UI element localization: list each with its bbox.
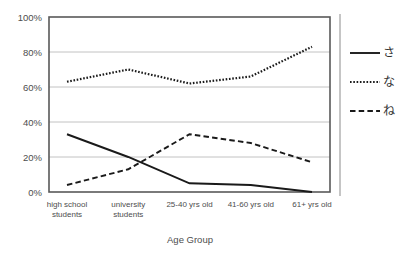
chart-canvas: 0%20%40%60%80%100% high schoolstudentsun… [0,0,402,267]
plot-area-frame [49,17,330,192]
series-line-solid [67,134,312,192]
legend: さなね [350,46,395,118]
gridlines [49,52,330,157]
series-line-dashed [67,134,312,185]
x-axis-tick-label: students [52,210,82,219]
line-chart: 0%20%40%60%80%100% high schoolstudentsun… [0,0,402,267]
legend-label: さ [383,46,395,60]
x-axis-title: Age Group [167,234,213,245]
y-axis-tick-label: 100% [18,12,43,23]
x-axis-tick-label: university [111,200,145,209]
y-axis-tick-label: 20% [23,152,43,163]
x-axis-tick-label: students [113,210,143,219]
x-axis-tick-label: 41-60 yrs old [228,200,274,209]
y-axis-tick-labels: 0%20%40%60%80%100% [18,12,43,198]
legend-label: な [383,75,395,89]
y-axis-tick-label: 0% [28,187,42,198]
legend-label: ね [383,104,395,118]
y-axis-tick-label: 60% [23,82,43,93]
y-axis-tick-label: 80% [23,47,43,58]
x-axis-tick-label: 25-40 yrs old [166,200,212,209]
x-axis-tick-label: 61+ yrs old [292,200,331,209]
x-axis-tick-labels: high schoolstudentsuniversitystudents25-… [47,200,332,219]
series-lines [67,47,312,192]
y-axis-tick-label: 40% [23,117,43,128]
x-axis-tick-label: high school [47,200,88,209]
